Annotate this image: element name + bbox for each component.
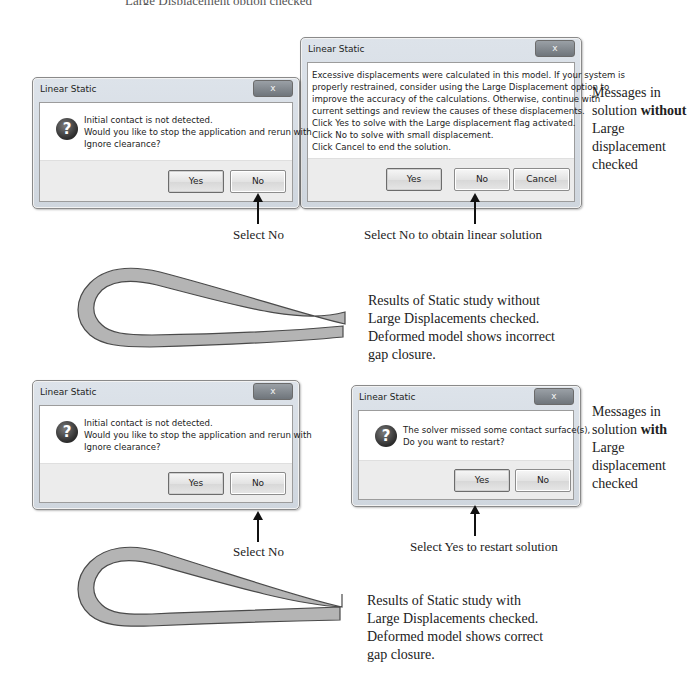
dialog-client-area: Excessive displacements were calculated … xyxy=(307,62,575,202)
message-area: Excessive displacements were calculated … xyxy=(308,63,574,159)
caption-select-no: Select No xyxy=(233,227,284,243)
caption-select-yes-restart: Select Yes to restart solution xyxy=(410,539,558,555)
close-icon: x xyxy=(270,83,275,93)
dialog-client-area: ? The solver missed some contact surface… xyxy=(358,410,574,500)
arrow-up-icon xyxy=(474,200,476,224)
caption-select-no-linear: Select No to obtain linear solution xyxy=(364,227,542,243)
no-button[interactable]: No xyxy=(230,472,286,495)
message-area: ? Initial contact is not detected. Would… xyxy=(40,103,292,161)
close-icon: x xyxy=(552,43,557,53)
yes-button[interactable]: Yes xyxy=(168,472,224,495)
side-note-with: Messages in solution with Large displace… xyxy=(592,403,687,493)
close-icon: x xyxy=(270,386,275,396)
cancel-button[interactable]: Cancel xyxy=(513,168,570,191)
close-icon: x xyxy=(551,391,556,401)
close-button[interactable]: x xyxy=(253,383,293,400)
dialog-title: Linear Static xyxy=(359,392,416,402)
dialog-client-area: ? Initial contact is not detected. Would… xyxy=(39,405,293,503)
button-area: Yes No Cancel xyxy=(308,158,574,201)
side-note-without: Messages in solution without Large displ… xyxy=(592,84,687,174)
deformed-model-correct xyxy=(60,535,350,635)
yes-button[interactable]: Yes xyxy=(168,170,224,193)
no-button[interactable]: No xyxy=(454,168,510,191)
dialog-title: Linear Static xyxy=(308,44,365,54)
question-icon: ? xyxy=(56,421,78,443)
excessive-displacement-dialog: Linear Static x Excessive displacements … xyxy=(300,37,582,209)
dialog-message: Initial contact is not detected. Would y… xyxy=(84,417,312,453)
arrow-up-icon xyxy=(474,512,476,536)
result-description-correct: Results of Static study with Large Displ… xyxy=(367,592,543,664)
no-button[interactable]: No xyxy=(515,469,571,492)
close-button[interactable]: x xyxy=(535,40,575,57)
initial-contact-dialog-2: Linear Static x ? Initial contact is not… xyxy=(32,380,300,510)
result-description-incorrect: Results of Static study without Large Di… xyxy=(368,292,555,364)
initial-contact-dialog: Linear Static x ? Initial contact is not… xyxy=(32,77,300,209)
dialog-message: Excessive displacements were calculated … xyxy=(312,69,625,153)
close-button[interactable]: x xyxy=(253,80,293,97)
dialog-title: Linear Static xyxy=(40,84,97,94)
dialog-client-area: ? Initial contact is not detected. Would… xyxy=(39,102,293,202)
message-area: ? Initial contact is not detected. Would… xyxy=(40,406,292,464)
close-button[interactable]: x xyxy=(534,388,574,405)
cropped-header-text: Large Displacement option checked xyxy=(125,0,505,5)
message-area: ? The solver missed some contact surface… xyxy=(359,411,573,461)
yes-button[interactable]: Yes xyxy=(454,469,510,492)
yes-button[interactable]: Yes xyxy=(386,168,442,191)
no-button[interactable]: No xyxy=(230,170,286,193)
dialog-title: Linear Static xyxy=(40,387,97,397)
button-area: Yes No xyxy=(359,460,573,499)
dialog-message: The solver missed some contact surface(s… xyxy=(403,424,590,448)
question-icon: ? xyxy=(375,425,397,447)
question-icon: ? xyxy=(56,118,78,140)
arrow-up-icon xyxy=(257,200,259,224)
solver-restart-dialog: Linear Static x ? The solver missed some… xyxy=(351,385,581,507)
dialog-message: Initial contact is not detected. Would y… xyxy=(84,114,312,150)
button-area: Yes No xyxy=(40,463,292,502)
deformed-model-incorrect xyxy=(60,255,350,355)
